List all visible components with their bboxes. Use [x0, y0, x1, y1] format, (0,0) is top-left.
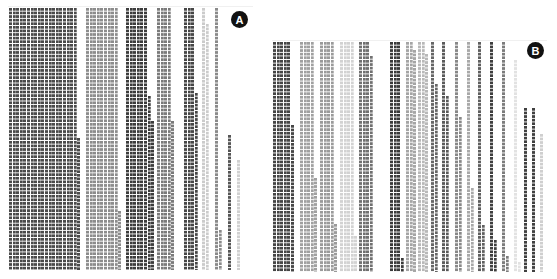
waffle-column [518, 262, 522, 272]
waffle-column [314, 178, 318, 272]
waffle-column [435, 84, 439, 272]
waffle-column [514, 60, 518, 272]
waffle-column [532, 108, 536, 272]
waffle-column [370, 56, 374, 272]
waffle-column [524, 108, 528, 272]
waffle-column [540, 134, 544, 272]
waffle-column [490, 42, 494, 272]
panel-label-a: A [231, 11, 248, 28]
waffle-column [494, 240, 498, 272]
waffle-column [291, 125, 295, 272]
waffle-column [354, 236, 358, 272]
waffle-column [482, 225, 486, 272]
waffle-chart-b [0, 0, 557, 279]
waffle-column [506, 256, 510, 272]
waffle-column [334, 224, 338, 272]
panel-label-b: B [527, 42, 544, 59]
waffle-column [459, 117, 463, 272]
waffle-column [425, 54, 429, 272]
waffle-column [413, 50, 417, 272]
waffle-column [502, 42, 506, 272]
waffle-column [446, 96, 450, 272]
panel-frame [272, 40, 547, 41]
waffle-column [397, 42, 401, 272]
waffle-column [471, 188, 475, 272]
waffle-column [401, 258, 405, 272]
